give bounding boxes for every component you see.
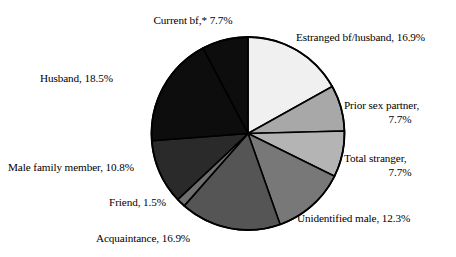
pie-label-total-stranger-line2: 7.7%: [344, 166, 456, 180]
pie-label-prior-sex-partner-line2: 7.7%: [344, 113, 456, 127]
pie-label-prior-sex-partner: Prior sex partner,7.7%: [344, 99, 456, 126]
pie-label-friend: Friend, 1.5%: [46, 196, 166, 210]
pie-label-current-bf: Current bf,* 7.7%: [128, 14, 258, 28]
pie-chart-figure: Current bf,* 7.7% Estranged bf/husband, …: [0, 0, 456, 257]
pie-label-total-stranger: Total stranger,7.7%: [344, 152, 456, 179]
pie-label-estranged-bf-husband: Estranged bf/husband, 16.9%: [296, 31, 456, 45]
pie-label-acquaintance: Acquaintance, 16.9%: [96, 232, 246, 246]
pie-label-husband: Husband, 18.5%: [40, 72, 170, 86]
pie-slice-group: [151, 37, 344, 230]
pie-label-prior-sex-partner-line1: Prior sex partner,: [344, 99, 419, 111]
pie-label-total-stranger-line1: Total stranger,: [344, 152, 407, 164]
pie-label-male-family-member: Male family member, 10.8%: [8, 161, 173, 175]
pie-label-unidentified-male: Unidentified male, 12.3%: [297, 212, 456, 226]
